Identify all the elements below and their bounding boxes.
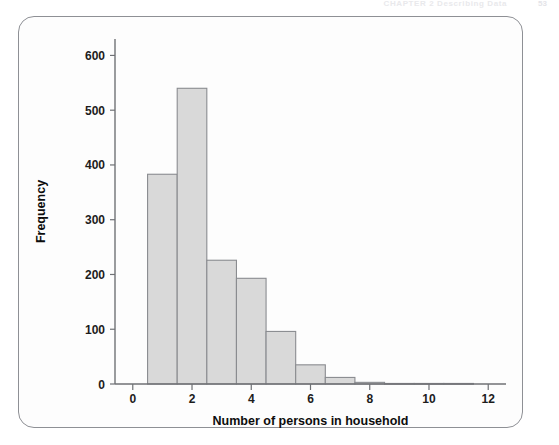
y-tick-label: 600	[85, 49, 105, 63]
y-tick-label: 0	[98, 378, 105, 392]
running-header: CHAPTER 2 Describing Data 53	[0, 0, 559, 11]
page-number: 53	[538, 0, 547, 8]
histogram-bar	[177, 88, 207, 384]
x-tick-label: 10	[422, 392, 436, 406]
x-tick-label: 0	[129, 392, 136, 406]
y-tick-label: 100	[85, 323, 105, 337]
x-tick-label: 12	[482, 392, 496, 406]
histogram-bar	[207, 260, 237, 384]
histogram-svg: 024681012 0100200300400500600 Number of …	[19, 17, 524, 429]
figure-panel: 024681012 0100200300400500600 Number of …	[18, 16, 523, 428]
y-tick-label: 300	[85, 213, 105, 227]
histogram-bar	[296, 365, 326, 384]
y-tick-label: 400	[85, 158, 105, 172]
histogram-bar	[266, 331, 296, 384]
x-tick-label: 8	[366, 392, 373, 406]
y-tick-label: 200	[85, 268, 105, 282]
x-axis-ticks: 024681012	[129, 384, 495, 406]
histogram-bar	[325, 377, 355, 384]
y-axis-title: Frequency	[34, 180, 48, 243]
y-axis-ticks: 0100200300400500600	[85, 49, 115, 392]
y-tick-label: 500	[85, 104, 105, 118]
x-tick-label: 4	[248, 392, 255, 406]
histogram-plot: 024681012 0100200300400500600 Number of …	[19, 17, 524, 429]
bars-group	[148, 88, 474, 384]
x-tick-label: 2	[189, 392, 196, 406]
running-header-text: CHAPTER 2 Describing Data	[384, 0, 507, 8]
x-axis-title: Number of persons in household	[213, 414, 409, 428]
histogram-bar	[236, 278, 266, 384]
histogram-bar	[148, 174, 178, 384]
x-tick-label: 6	[307, 392, 314, 406]
